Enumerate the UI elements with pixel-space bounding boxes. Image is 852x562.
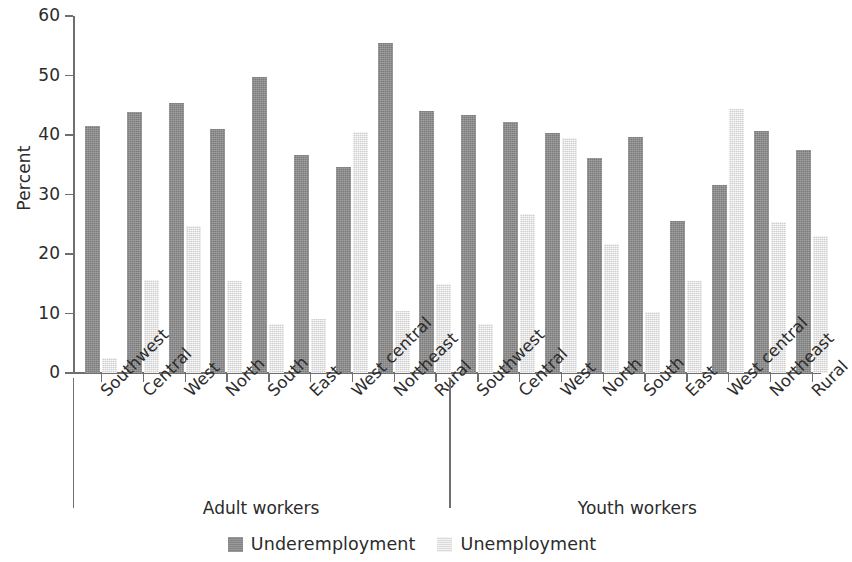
bar-underemployment (210, 129, 225, 373)
y-axis-tick-label-wrap: 30 (8, 195, 60, 196)
bar-unemployment (353, 132, 368, 373)
y-axis-tick-label-wrap: 20 (8, 254, 60, 255)
y-axis-tick-label-wrap: 10 (8, 314, 60, 315)
bar-underemployment (169, 103, 184, 373)
bar-underemployment (712, 185, 727, 373)
bar-unemployment (729, 109, 744, 373)
y-axis-tick (65, 134, 73, 136)
bar-underemployment (294, 155, 309, 373)
bar-underemployment (461, 115, 476, 373)
bar-unemployment (227, 281, 242, 373)
y-axis-tick-label: 10 (14, 305, 60, 322)
y-axis-tick (65, 15, 73, 17)
y-axis-tick-label-wrap: 40 (8, 135, 60, 136)
y-axis-tick-label-wrap: 50 (8, 76, 60, 77)
plot-area (73, 16, 821, 373)
y-axis-tick-label: 40 (14, 126, 60, 143)
y-axis-tick-label-wrap: 60 (8, 16, 60, 17)
bar-unemployment (687, 281, 702, 373)
bar-underemployment (587, 158, 602, 373)
y-axis-tick-label: 50 (14, 67, 60, 84)
y-axis-tick (65, 194, 73, 196)
bar-unemployment (478, 324, 493, 373)
group-label: Adult workers (73, 498, 449, 518)
legend-label: Underemployment (251, 534, 416, 554)
bar-underemployment (628, 137, 643, 373)
bar-underemployment (127, 112, 142, 373)
legend-item: Underemployment (228, 534, 416, 554)
y-axis-tick-label: 30 (14, 186, 60, 203)
group-label: Youth workers (449, 498, 825, 518)
group-separator (449, 378, 450, 508)
legend-label: Unemployment (460, 534, 596, 554)
bar-underemployment (754, 131, 769, 373)
bar-unemployment (562, 138, 577, 373)
bar-unemployment (645, 312, 660, 373)
y-axis-tick (65, 253, 73, 255)
legend-swatch-icon (437, 537, 452, 552)
bar-unemployment (604, 244, 619, 373)
y-axis-tick-label-wrap: 0 (8, 373, 60, 374)
y-axis-tick (65, 372, 73, 374)
group-separator (73, 378, 74, 508)
bar-underemployment (252, 77, 267, 373)
y-axis-tick (65, 75, 73, 77)
legend-item: Unemployment (437, 534, 596, 554)
bar-underemployment (378, 43, 393, 373)
y-axis-tick-label: 20 (14, 245, 60, 262)
bar-underemployment (85, 126, 100, 373)
bar-underemployment (503, 122, 518, 373)
bar-underemployment (336, 167, 351, 373)
bar-underemployment (670, 221, 685, 373)
bar-unemployment (311, 319, 326, 373)
y-axis-tick-label: 0 (14, 364, 60, 381)
chart-legend: UnderemploymentUnemployment (0, 534, 824, 554)
y-axis-tick (65, 313, 73, 315)
y-axis-tick-label: 60 (14, 7, 60, 24)
legend-swatch-icon (228, 537, 243, 552)
bar-unemployment (269, 324, 284, 373)
